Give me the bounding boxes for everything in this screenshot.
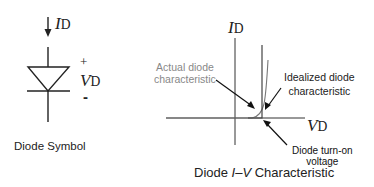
minus-sign: - — [83, 89, 88, 104]
annotation-line: Idealized diode — [284, 70, 355, 84]
arrow-head-icon — [247, 101, 255, 109]
current-arrow-head-icon — [45, 29, 52, 37]
current-label: ID — [55, 15, 71, 32]
diode-triangle-icon — [28, 67, 69, 91]
x-axis-label: VD — [307, 117, 327, 134]
diode-symbol — [27, 17, 70, 122]
arrow-head-icon — [263, 120, 271, 127]
iv-chart-caption: Diode I–V Characteristic — [194, 166, 334, 179]
diode-symbol-caption: Diode Symbol — [14, 141, 86, 153]
plus-sign: + — [80, 55, 87, 68]
turn-on-voltage-annotation: Diode turn-on voltage — [292, 145, 353, 167]
annotation-line: Diode turn-on — [292, 145, 353, 156]
actual-annotation-arrow — [216, 80, 252, 106]
idealized-diode-annotation: Idealized diode characteristic — [284, 70, 355, 98]
annotation-line: Actual diode — [154, 61, 216, 73]
annotation-line: characteristic — [154, 73, 216, 85]
y-axis-label: ID — [228, 19, 244, 36]
ideal-annotation-arrow — [268, 88, 281, 106]
actual-diode-annotation: Actual diode characteristic — [154, 61, 216, 85]
annotation-line: characteristic — [284, 84, 355, 98]
turn-on-annotation-arrow — [267, 124, 287, 145]
voltage-label: VD — [80, 72, 100, 89]
